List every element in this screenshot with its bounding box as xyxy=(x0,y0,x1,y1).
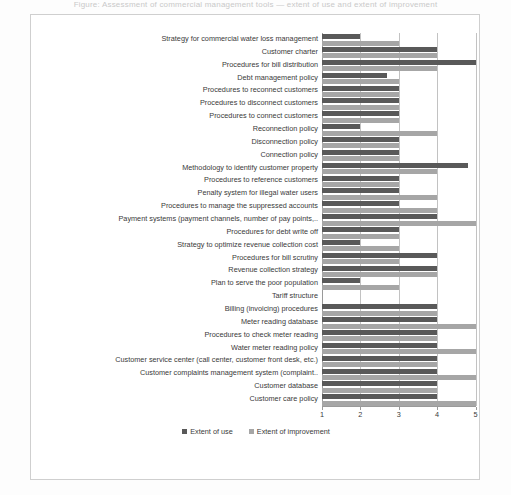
bar-group xyxy=(322,303,476,316)
bar-group xyxy=(322,174,476,187)
bar-extent-of-use xyxy=(322,176,399,181)
bar-group xyxy=(322,367,476,380)
bar-extent-of-improvement xyxy=(322,221,476,226)
cropped-figure-title: Figure: Assessment of commercial managem… xyxy=(0,0,511,9)
bar-extent-of-improvement xyxy=(322,246,399,251)
x-tick-label: 2 xyxy=(358,410,362,419)
category-label: Disconnection policy xyxy=(31,136,322,149)
bar-extent-of-improvement xyxy=(322,131,437,136)
legend-swatch-icon xyxy=(249,429,254,434)
chart-legend: Extent of useExtent of improvement xyxy=(31,427,481,436)
category-label: Procedures to check meter reading xyxy=(31,329,322,342)
category-axis-labels: Strategy for commercial water loss manag… xyxy=(31,33,322,406)
bar-group xyxy=(322,290,476,303)
bar-extent-of-use xyxy=(322,343,437,348)
category-label: Procedures for debt write off xyxy=(31,226,322,239)
bar-group xyxy=(322,72,476,85)
bar-extent-of-use xyxy=(322,381,437,386)
bar-extent-of-improvement xyxy=(322,362,437,367)
legend-item[interactable]: Extent of use xyxy=(182,427,233,436)
gridline xyxy=(476,33,477,406)
category-label: Procedures to reconnect customers xyxy=(31,84,322,97)
bar-extent-of-use xyxy=(322,86,399,91)
category-label: Penalty system for illegal water users xyxy=(31,187,322,200)
category-label: Plan to serve the poor population xyxy=(31,277,322,290)
category-label: Payment systems (payment channels, numbe… xyxy=(31,213,322,226)
plot-wrapper: Strategy for commercial water loss manag… xyxy=(31,15,481,481)
bar-extent-of-improvement xyxy=(322,92,399,97)
category-label: Billing (invoicing) procedures xyxy=(31,303,322,316)
category-label: Water meter reading policy xyxy=(31,342,322,355)
x-axis-ticks: 12345 xyxy=(322,407,476,419)
category-label: Strategy for commercial water loss manag… xyxy=(31,33,322,46)
category-label: Procedures to manage the suppressed acco… xyxy=(31,200,322,213)
category-label: Procedures to reference customers xyxy=(31,174,322,187)
bar-extent-of-use xyxy=(322,201,399,206)
bar-group xyxy=(322,97,476,110)
bar-group xyxy=(322,277,476,290)
bar-group xyxy=(322,355,476,368)
bar-group xyxy=(322,265,476,278)
bar-extent-of-use xyxy=(322,188,399,193)
category-label: Procedures for bill distribution xyxy=(31,59,322,72)
bar-series-group xyxy=(322,33,476,406)
x-tick-label: 5 xyxy=(473,410,477,419)
bar-extent-of-use xyxy=(322,34,360,39)
bar-extent-of-use xyxy=(322,137,399,142)
legend-item[interactable]: Extent of improvement xyxy=(249,427,330,436)
bar-group xyxy=(322,329,476,342)
bar-extent-of-use xyxy=(322,150,399,155)
bar-extent-of-improvement xyxy=(322,182,399,187)
bar-extent-of-use xyxy=(322,214,437,219)
bar-group xyxy=(322,187,476,200)
bar-group xyxy=(322,393,476,406)
bar-extent-of-use xyxy=(322,330,437,335)
bar-extent-of-improvement xyxy=(322,285,399,290)
bar-group xyxy=(322,123,476,136)
bar-extent-of-improvement xyxy=(322,388,437,393)
bar-group xyxy=(322,316,476,329)
bar-extent-of-use xyxy=(322,356,437,361)
bar-extent-of-improvement xyxy=(322,143,399,148)
x-tick-label: 1 xyxy=(320,410,324,419)
legend-swatch-icon xyxy=(182,429,187,434)
bar-extent-of-use xyxy=(322,60,476,65)
bar-extent-of-improvement xyxy=(322,349,476,354)
bar-extent-of-use xyxy=(322,278,360,283)
bar-group xyxy=(322,149,476,162)
bar-extent-of-improvement xyxy=(322,53,437,58)
legend-label: Extent of improvement xyxy=(257,427,330,436)
bar-group xyxy=(322,46,476,59)
bar-group xyxy=(322,110,476,123)
bar-extent-of-improvement xyxy=(322,375,476,380)
bar-extent-of-improvement xyxy=(322,41,399,46)
category-label: Customer care policy xyxy=(31,393,322,406)
bar-group xyxy=(322,200,476,213)
bar-extent-of-improvement xyxy=(322,324,476,329)
bar-extent-of-improvement xyxy=(322,401,476,406)
bar-group xyxy=(322,136,476,149)
bar-extent-of-use xyxy=(322,394,437,399)
category-label: Debt management policy xyxy=(31,72,322,85)
bar-extent-of-improvement xyxy=(322,336,437,341)
bar-extent-of-use xyxy=(322,317,437,322)
category-label: Methodology to identify customer propert… xyxy=(31,162,322,175)
bar-group xyxy=(322,213,476,226)
bar-extent-of-use xyxy=(322,227,399,232)
bar-extent-of-improvement xyxy=(322,105,399,110)
bar-extent-of-use xyxy=(322,98,399,103)
bar-extent-of-improvement xyxy=(322,156,399,161)
category-label: Tariff structure xyxy=(31,290,322,303)
x-tick-label: 4 xyxy=(435,410,439,419)
bar-group xyxy=(322,342,476,355)
bar-extent-of-use xyxy=(322,47,437,52)
bar-group xyxy=(322,84,476,97)
bar-extent-of-improvement xyxy=(322,118,399,123)
bar-extent-of-improvement xyxy=(322,272,437,277)
chart-frame: Strategy for commercial water loss manag… xyxy=(30,14,480,480)
bar-extent-of-improvement xyxy=(322,208,437,213)
bar-extent-of-use xyxy=(322,253,437,258)
category-label: Customer charter xyxy=(31,46,322,59)
bar-extent-of-improvement xyxy=(322,311,437,316)
bar-extent-of-improvement xyxy=(322,66,437,71)
